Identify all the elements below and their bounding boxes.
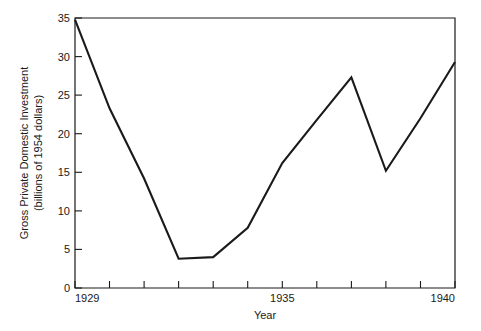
y-tick-label-5: 5 bbox=[64, 243, 70, 255]
y-tick-label-20: 20 bbox=[58, 128, 70, 140]
y-tick-label-30: 30 bbox=[58, 51, 70, 63]
y-tick-label-10: 10 bbox=[58, 205, 70, 217]
y-tick-label-35: 35 bbox=[58, 12, 70, 24]
y-axis-title-line1: Gross Private Domestic Investment bbox=[18, 67, 30, 239]
x-axis-tick-labels: 1929 1935 1940 bbox=[75, 292, 455, 304]
chart-figure: 0 5 10 15 20 25 30 35 1929 193 bbox=[0, 0, 481, 331]
y-axis-title-line2: (billions of 1954 dollars) bbox=[32, 95, 44, 211]
y-axis-tick-labels: 0 5 10 15 20 25 30 35 bbox=[58, 12, 70, 294]
y-axis-ticks bbox=[75, 18, 82, 288]
x-tick-label-1940: 1940 bbox=[431, 292, 455, 304]
x-axis-ticks bbox=[75, 281, 455, 288]
investment-series-line bbox=[75, 20, 455, 259]
y-tick-label-15: 15 bbox=[58, 166, 70, 178]
x-axis-title: Year bbox=[254, 309, 277, 321]
x-tick-label-1935: 1935 bbox=[270, 292, 294, 304]
y-tick-label-25: 25 bbox=[58, 89, 70, 101]
line-chart: 0 5 10 15 20 25 30 35 1929 193 bbox=[0, 0, 481, 331]
x-tick-label-1929: 1929 bbox=[75, 292, 99, 304]
y-tick-label-0: 0 bbox=[64, 282, 70, 294]
